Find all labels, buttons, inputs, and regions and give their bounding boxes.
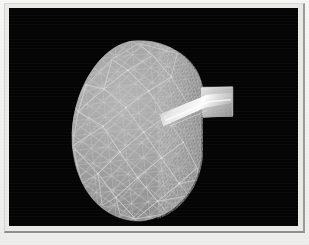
render-canvas[interactable] <box>9 8 298 226</box>
figure-frame <box>4 3 305 233</box>
screenshot-root <box>0 0 309 245</box>
caption-strip <box>0 234 309 245</box>
mesh-render-svg <box>9 8 298 226</box>
